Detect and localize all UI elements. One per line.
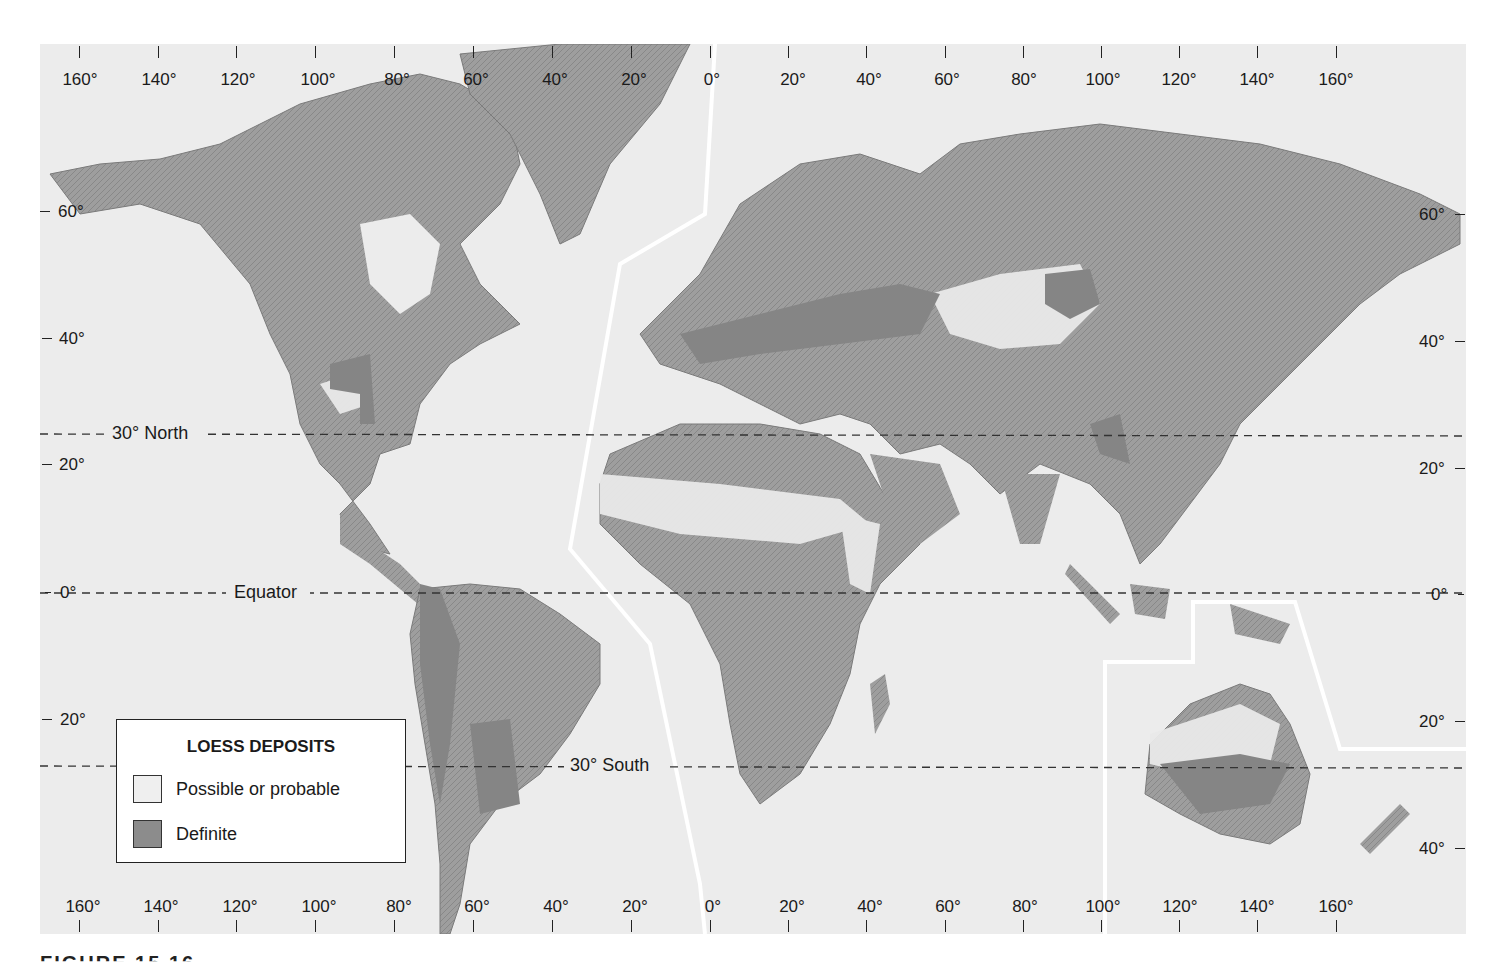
legend-title: LOESS DEPOSITS — [117, 737, 405, 757]
label-equator: Equator — [234, 582, 297, 603]
lon-label: 80° — [386, 897, 412, 917]
tick — [1336, 46, 1337, 58]
lon-label: 80° — [1011, 70, 1037, 90]
tick — [79, 920, 80, 932]
lat-label: 20° — [59, 455, 85, 475]
lon-label: 60° — [464, 897, 490, 917]
tick — [42, 719, 52, 720]
lon-label: 160° — [65, 897, 100, 917]
tick — [788, 46, 789, 58]
lon-label: 140° — [1239, 897, 1274, 917]
tick — [1257, 46, 1258, 58]
legend-item-definite: Definite — [133, 819, 237, 849]
tick — [236, 46, 237, 58]
swatch-possible — [133, 775, 162, 803]
lat-label: 20° — [1419, 712, 1445, 732]
tick — [788, 920, 789, 932]
lon-label: 40° — [543, 897, 569, 917]
tick — [45, 592, 51, 593]
tick — [473, 920, 474, 932]
tick — [1455, 214, 1465, 215]
lon-label: 160° — [1318, 897, 1353, 917]
tick — [945, 920, 946, 932]
tick — [394, 46, 395, 58]
map-legend: LOESS DEPOSITS Possible or probable Defi… — [116, 719, 406, 863]
tick — [1458, 594, 1464, 595]
lon-label: 100° — [301, 897, 336, 917]
lat-label: 20° — [1419, 459, 1445, 479]
swatch-definite — [133, 820, 162, 848]
tick — [40, 211, 50, 212]
tick — [552, 920, 553, 932]
legend-item-possible: Possible or probable — [133, 774, 340, 804]
tick — [158, 46, 159, 58]
tick — [1179, 46, 1180, 58]
tick — [866, 46, 867, 58]
tick — [1257, 920, 1258, 932]
lon-label: 20° — [779, 897, 805, 917]
lon-label: 100° — [1085, 70, 1120, 90]
tick — [552, 46, 553, 58]
lon-label: 0° — [705, 897, 721, 917]
tick — [394, 920, 395, 932]
continent-north-america — [50, 74, 520, 554]
lon-label: 140° — [143, 897, 178, 917]
lon-label: 160° — [1318, 70, 1353, 90]
tick — [473, 46, 474, 58]
lon-label: 80° — [384, 70, 410, 90]
lat-label: 0° — [60, 583, 76, 603]
lon-label: 100° — [300, 70, 335, 90]
tick — [1023, 46, 1024, 58]
tick — [710, 46, 711, 58]
lon-label: 20° — [622, 897, 648, 917]
tick — [631, 46, 632, 58]
tick — [1455, 341, 1465, 342]
lon-label: 100° — [1085, 897, 1120, 917]
lon-label: 20° — [621, 70, 647, 90]
lon-label: 120° — [1162, 897, 1197, 917]
lon-label: 120° — [220, 70, 255, 90]
tick — [631, 920, 632, 932]
tick — [866, 920, 867, 932]
lat-label: 20° — [60, 710, 86, 730]
legend-label: Definite — [176, 824, 237, 845]
lon-label: 40° — [542, 70, 568, 90]
tick — [315, 46, 316, 58]
tick — [1101, 46, 1102, 58]
tick — [1455, 721, 1465, 722]
tick — [710, 920, 711, 932]
figure-caption: FIGURE 15.16 — [40, 952, 195, 968]
tick — [158, 920, 159, 932]
tick — [79, 46, 80, 58]
lat-label: 40° — [1419, 332, 1445, 352]
lat-label: 60° — [58, 202, 84, 222]
tick — [42, 464, 52, 465]
tick — [1336, 920, 1337, 932]
tick — [42, 338, 52, 339]
lon-label: 40° — [856, 70, 882, 90]
lon-label: 140° — [1239, 70, 1274, 90]
legend-label: Possible or probable — [176, 779, 340, 800]
lon-label: 60° — [935, 897, 961, 917]
lat-label: 0° — [1431, 585, 1447, 605]
lon-label: 20° — [780, 70, 806, 90]
label-30-south: 30° South — [570, 755, 649, 776]
tick — [1101, 920, 1102, 932]
lon-label: 60° — [463, 70, 489, 90]
lon-label: 40° — [857, 897, 883, 917]
lon-label: 60° — [934, 70, 960, 90]
lat-label: 40° — [1419, 839, 1445, 859]
tick — [1179, 920, 1180, 932]
lat-label: 40° — [59, 329, 85, 349]
tick — [1455, 848, 1465, 849]
lon-label: 140° — [141, 70, 176, 90]
tick — [945, 46, 946, 58]
tick — [1455, 468, 1465, 469]
lon-label: 120° — [222, 897, 257, 917]
lon-label: 120° — [1161, 70, 1196, 90]
tick — [236, 920, 237, 932]
lat-label: 60° — [1419, 205, 1445, 225]
lon-label: 0° — [704, 70, 720, 90]
lon-label: 80° — [1012, 897, 1038, 917]
tick — [315, 920, 316, 932]
